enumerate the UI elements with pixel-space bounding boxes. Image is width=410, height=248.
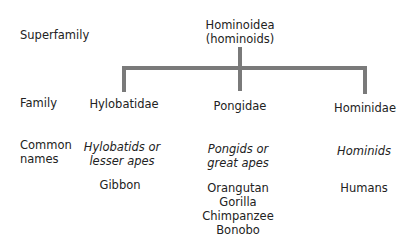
tree-branch-hominidae — [363, 66, 367, 94]
common-pongidae-2: great apes — [207, 156, 269, 170]
row-label-common-names-2: names — [20, 152, 59, 166]
member-bonobo: Bonobo — [216, 223, 260, 237]
superfamily-common-name: (hominoids) — [206, 32, 275, 46]
family-hominidae: Hominidae — [334, 101, 396, 115]
row-label-common-names-1: Common — [20, 138, 72, 152]
superfamily-name: Hominoidea — [205, 18, 274, 32]
member-orangutan: Orangutan — [207, 181, 269, 195]
member-humans: Humans — [340, 181, 387, 195]
member-chimpanzee: Chimpanzee — [202, 209, 274, 223]
row-label-family: Family — [20, 96, 57, 110]
row-label-superfamily: Superfamily — [20, 28, 89, 42]
common-hylobatidae-2: lesser apes — [89, 154, 154, 168]
member-gibbon: Gibbon — [99, 178, 140, 192]
tree-branch-hylobatidae — [122, 66, 126, 92]
tree-branch-line — [122, 66, 367, 70]
family-pongidae: Pongidae — [214, 99, 267, 113]
family-hylobatidae: Hylobatidae — [89, 97, 158, 111]
common-hominidae: Hominids — [337, 144, 391, 158]
common-hylobatidae-1: Hylobatids or — [84, 140, 160, 154]
common-pongidae-1: Pongids or — [208, 142, 268, 156]
member-gorilla: Gorilla — [219, 195, 256, 209]
